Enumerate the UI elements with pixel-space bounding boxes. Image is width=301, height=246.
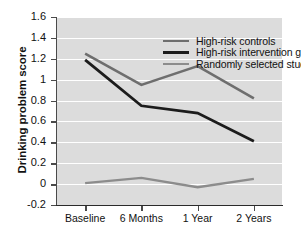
x-tick <box>85 206 86 211</box>
y-tick <box>51 38 56 39</box>
y-tick <box>51 142 56 143</box>
y-tick-label: -0.2 <box>0 198 46 210</box>
y-tick-label: 0.8 <box>0 94 46 106</box>
legend-label: Randomly selected students <box>196 58 301 70</box>
x-tick <box>198 206 199 211</box>
y-tick-label: 1.4 <box>0 31 46 43</box>
x-tick-label: 1 Year <box>183 212 213 224</box>
x-axis-line <box>56 205 283 206</box>
series-line-1 <box>85 60 254 141</box>
y-tick-label: 0 <box>0 177 46 189</box>
legend-item-1: High-risk intervention group <box>163 47 301 59</box>
y-tick <box>51 121 56 122</box>
y-tick <box>51 184 56 185</box>
y-tick <box>51 17 56 18</box>
legend-label: High-risk controls <box>196 35 275 47</box>
x-tick-label: 6 Months <box>120 212 163 224</box>
y-axis-line <box>56 17 57 206</box>
x-tick-label: Baseline <box>65 212 105 224</box>
y-tick-label: 1.6 <box>0 10 46 22</box>
y-tick-label: 0.2 <box>0 156 46 168</box>
legend-swatch <box>163 40 189 43</box>
y-tick-label: 1 <box>0 73 46 85</box>
x-tick <box>254 206 255 211</box>
y-tick <box>51 101 56 102</box>
y-tick-label: 0.4 <box>0 135 46 147</box>
x-tick-label: 2 Years <box>236 212 271 224</box>
chart-figure: Drinking problem score High-risk control… <box>0 0 301 246</box>
y-tick-label: 1.2 <box>0 52 46 64</box>
y-tick <box>51 59 56 60</box>
y-tick <box>51 80 56 81</box>
x-tick <box>141 206 142 211</box>
y-tick <box>51 163 56 164</box>
y-tick-label: 0.6 <box>0 114 46 126</box>
plot-area: High-risk controlsHigh-risk intervention… <box>57 17 282 205</box>
legend-item-0: High-risk controls <box>163 35 301 47</box>
legend-swatch <box>163 63 189 65</box>
series-line-2 <box>85 178 254 187</box>
y-tick <box>51 205 56 206</box>
legend-label: High-risk intervention group <box>196 46 301 58</box>
y-axis-title: Drinking problem score <box>16 20 28 200</box>
chart-legend: High-risk controlsHigh-risk intervention… <box>163 35 301 70</box>
legend-item-2: Randomly selected students <box>163 58 301 70</box>
legend-swatch <box>163 51 189 54</box>
